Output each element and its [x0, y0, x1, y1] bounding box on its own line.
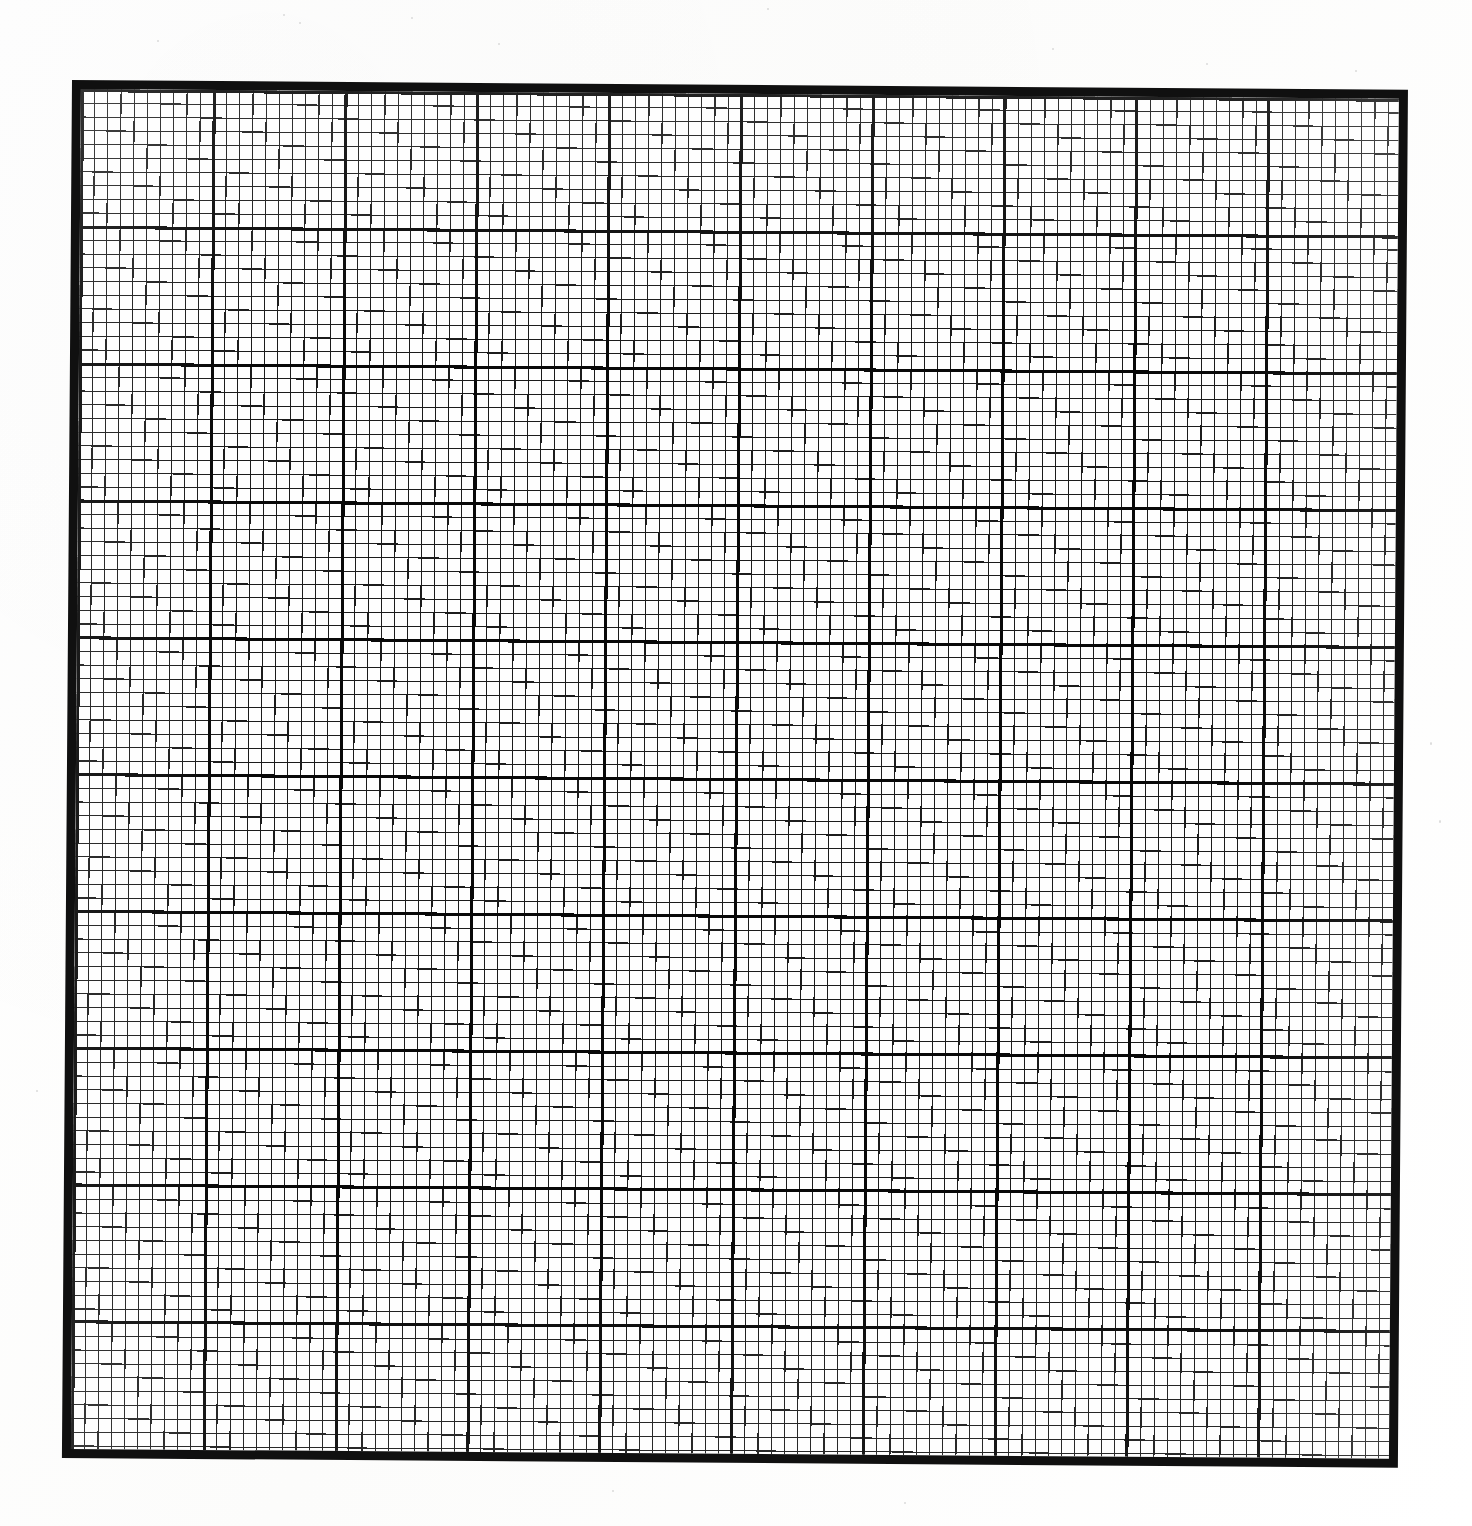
scanned-page [0, 0, 1472, 1526]
scan-speck [1439, 820, 1441, 823]
scan-speck [904, 1502, 906, 1504]
scan-speck [411, 17, 413, 19]
scan-speck [1206, 63, 1208, 65]
major-gridlines [71, 89, 1399, 1459]
scan-speck [36, 1090, 38, 1092]
scan-speck [1430, 742, 1432, 745]
scan-speck [612, 1490, 614, 1492]
scan-speck [283, 14, 285, 16]
scan-speck [1052, 48, 1054, 50]
scan-speck [498, 43, 500, 45]
grid-area [71, 89, 1399, 1459]
graph-paper-sheet [62, 80, 1408, 1468]
scan-speck [157, 40, 159, 42]
scan-speck [299, 22, 301, 24]
scan-speck [1355, 70, 1357, 72]
scan-speck [767, 8, 769, 10]
